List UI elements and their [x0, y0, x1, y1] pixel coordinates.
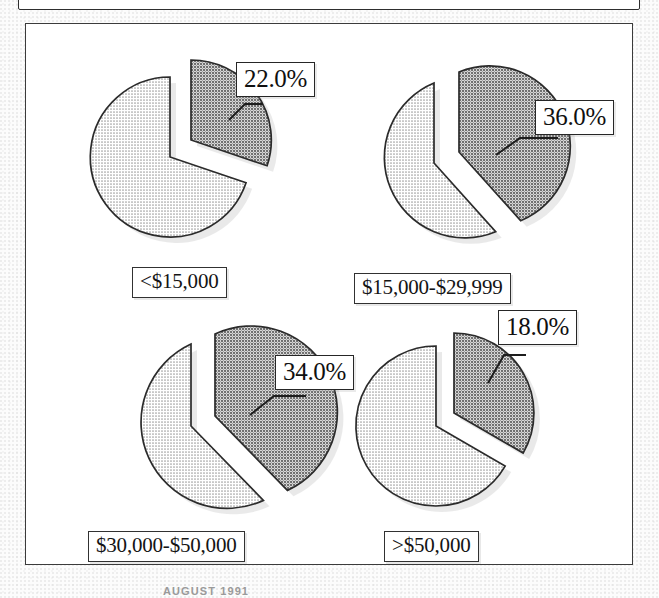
pie-chart-1 — [330, 24, 634, 295]
pie-1-percent-label: 36.0% — [535, 100, 614, 135]
pie-chart-2 — [26, 295, 330, 566]
pie-2-category-label: $30,000-$50,000 — [88, 531, 245, 562]
pie-panel-2 — [26, 295, 330, 566]
pie-3-percent-label: 18.0% — [498, 310, 577, 345]
pie-3-highlight-slice — [454, 333, 534, 453]
pie-0-category-label: <$15,000 — [132, 267, 227, 298]
clipped-top-box — [18, 0, 640, 10]
chart-frame: 22.0% <$15,000 36.0% $15,000-$29,999 — [25, 23, 633, 565]
pie-3-category-label: >$50,000 — [384, 531, 479, 562]
clipped-bottom-caption: AUGUST 1991 — [0, 586, 659, 598]
pie-2-highlight-slice — [215, 326, 337, 490]
pie-panel-3 — [330, 295, 634, 566]
pie-chart-3 — [330, 295, 634, 566]
clipped-bottom-caption-text: AUGUST 1991 — [163, 586, 249, 597]
pie-panel-1 — [330, 24, 634, 295]
scanned-page: 22.0% <$15,000 36.0% $15,000-$29,999 — [0, 0, 659, 598]
pie-0-percent-label: 22.0% — [236, 62, 315, 97]
